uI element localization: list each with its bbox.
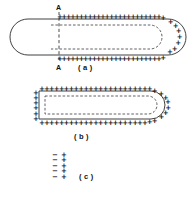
svg-text:+: + [152, 117, 158, 125]
panel-a-group: + + + + + + + + + + + + + + + + + + + + [10, 12, 186, 63]
svg-text:+: + [33, 115, 39, 123]
svg-text:+: + [158, 113, 164, 121]
panel-a-top-charges: + + + + + + + + + + + + + + + + + + + + [57, 13, 166, 22]
figure-canvas: + + + + + + + + + + + + + + + + + + + + [0, 0, 189, 198]
panel-b-group: + + + + + + + + + + + + + + + + + + + + [33, 85, 171, 127]
panel-a-bottom-charges: + + + + + + + + + + + + + + + + + + + + [57, 54, 166, 63]
panel-b-top-charges: + + + + + + + + + + + + + + + + + + + + [39, 85, 158, 95]
panel-label-b: ( b ) [74, 133, 89, 141]
svg-text:+: + [160, 14, 166, 22]
svg-text:+: + [167, 48, 173, 56]
panel-b-right-arc-charges: + + + + + + [158, 90, 171, 121]
figure-root: + + + + + + + + + + + + + + + + + + + + [0, 0, 189, 198]
panel-b-inner-boundary [45, 96, 157, 114]
panel-label-a: ( a ) [78, 64, 92, 72]
svg-text:−: − [52, 173, 58, 181]
section-label-a-bottom: A [56, 64, 61, 71]
panel-a-outer-boundary [10, 19, 186, 55]
svg-text:+: + [160, 54, 166, 62]
panel-c-group: − − − − − + + + + + [52, 151, 67, 181]
panel-b-left-charges: + + + + + + [33, 89, 39, 124]
section-label-a-top: A [56, 4, 61, 11]
panel-b-outer-boundary [39, 91, 165, 119]
panel-c-negative-column: − − − − − [52, 151, 58, 181]
panel-b-bottom-charges: + + + + + + + + + + + + + + + + + + + + [39, 117, 158, 127]
panel-label-c: ( c ) [79, 173, 93, 181]
panel-a-inner-boundary [51, 25, 162, 49]
svg-text:+: + [152, 87, 158, 95]
svg-text:+: + [61, 173, 67, 181]
panel-c-positive-column: + + + + + [61, 151, 67, 181]
